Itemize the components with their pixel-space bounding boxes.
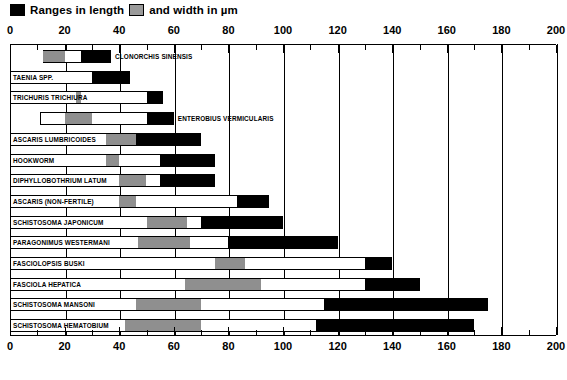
axis-bottom (10, 335, 556, 336)
axis-tick-label-60: 60 (168, 24, 180, 36)
legend-length-swatch (10, 4, 25, 16)
axis-tick-10 (37, 330, 38, 335)
length-range-bar (201, 217, 283, 228)
width-range-bar (147, 217, 188, 228)
axis-tick-30 (92, 330, 93, 335)
width-range-bar (106, 155, 120, 166)
legend-width-label: and width in µm (149, 4, 238, 16)
bar-row[interactable]: TAENIA SPP. (10, 71, 556, 84)
axis-tick-190 (529, 330, 530, 335)
width-range-bar (65, 113, 92, 124)
axis-tick-label-20: 20 (58, 340, 70, 352)
bar-row-label: SCHISTOSOMA HEMATOBIUM (10, 320, 109, 331)
width-range-bar (119, 196, 135, 207)
axis-tick-80 (228, 327, 229, 335)
bar-row[interactable]: PARAGONIMUS WESTERMANI (10, 236, 556, 249)
bar-row[interactable]: FASCIOLOPSIS BUSKI (10, 257, 556, 270)
axis-tick-160 (447, 327, 448, 335)
bar-row-label: SCHISTOSOMA JAPONICUM (10, 217, 104, 228)
plot-area (10, 44, 558, 335)
bar-row-label: FASCIOLOPSIS BUSKI (10, 258, 85, 269)
bar-row-label: DIPHYLLOBOTHRIUM LATUM (10, 175, 107, 186)
chart-root: Ranges in length and width in µm 0204060… (0, 0, 567, 380)
axis-tick-120 (338, 327, 339, 335)
axis-tick-20 (65, 327, 66, 335)
axis-tick-label-160: 160 (438, 24, 456, 36)
width-range-bar (119, 175, 146, 186)
axis-tick-140 (392, 327, 393, 335)
gridline-20 (66, 44, 67, 335)
bar-row[interactable]: TRICHURIS TRICHIURA (10, 91, 556, 104)
length-range-bar (365, 279, 420, 290)
length-range-bar (92, 72, 130, 83)
axis-tick-150 (420, 330, 421, 335)
width-range-bar (215, 258, 245, 269)
gridline-140 (393, 44, 394, 335)
axis-tick-label-0: 0 (7, 24, 13, 36)
axis-tick-label-80: 80 (222, 340, 234, 352)
legend-width-swatch (129, 4, 144, 16)
axis-tick-200 (556, 45, 557, 53)
axis-tick-label-60: 60 (168, 340, 180, 352)
bar-row-label: PARAGONIMUS WESTERMANI (10, 237, 110, 248)
gridline-120 (339, 44, 340, 335)
bar-row[interactable]: DIPHYLLOBOTHRIUM LATUM (10, 174, 556, 187)
gridline-40 (120, 44, 121, 335)
bar-row-label: ASCARIS (NON-FERTILE) (10, 196, 94, 207)
axis-tick-label-40: 40 (113, 340, 125, 352)
bar-row-label: ENTEROBIUS VERMICULARIS (174, 113, 274, 124)
axis-tick-110 (310, 330, 311, 335)
width-range-bar (125, 320, 201, 331)
axis-tick-0 (10, 327, 11, 335)
axis-tick-200 (556, 327, 557, 335)
width-range-bar (106, 134, 136, 145)
gridline-100 (284, 44, 285, 335)
length-range-bar (160, 155, 215, 166)
axis-tick-label-40: 40 (113, 24, 125, 36)
chart-legend: Ranges in length and width in µm (10, 2, 238, 18)
axis-tick-170 (474, 330, 475, 335)
bar-row[interactable]: ASCARIS (NON-FERTILE) (10, 195, 556, 208)
axis-tick-label-20: 20 (58, 24, 70, 36)
length-range-bar (228, 237, 337, 248)
axis-tick-50 (147, 330, 148, 335)
bar-row-label: TAENIA SPP. (10, 72, 53, 83)
bar-row[interactable]: CLONORCHIS SINENSIS (10, 50, 556, 63)
bar-row[interactable]: HOOKWORM (10, 154, 556, 167)
gridline-60 (175, 44, 176, 335)
bar-row[interactable]: SCHISTOSOMA MANSONI (10, 298, 556, 311)
width-range-bar (136, 299, 202, 310)
length-range-bar (136, 134, 202, 145)
bar-row[interactable]: SCHISTOSOMA JAPONICUM (10, 216, 556, 229)
gridline-160 (448, 44, 449, 335)
axis-tick-label-160: 160 (438, 340, 456, 352)
axis-tick-label-140: 140 (383, 24, 401, 36)
length-range-bar (81, 51, 111, 62)
legend-length-label: Ranges in length (30, 4, 124, 16)
axis-top (10, 44, 556, 45)
axis-tick-130 (365, 330, 366, 335)
axis-tick-label-200: 200 (547, 24, 565, 36)
bar-row[interactable]: FASCIOLA HEPATICA (10, 278, 556, 291)
width-range-bar (43, 51, 65, 62)
axis-tick-90 (256, 330, 257, 335)
axis-tick-label-100: 100 (274, 24, 292, 36)
axis-tick-label-0: 0 (7, 340, 13, 352)
axis-tick-180 (501, 327, 502, 335)
axis-tick-60 (174, 327, 175, 335)
bar-row[interactable]: ENTEROBIUS VERMICULARIS (10, 112, 556, 125)
bar-row-label: CLONORCHIS SINENSIS (111, 51, 192, 62)
axis-tick-40 (119, 327, 120, 335)
length-range-bar (316, 320, 474, 331)
bar-row-label: ASCARIS LUMBRICOIDES (10, 134, 96, 145)
axis-tick-70 (201, 330, 202, 335)
axis-tick-100 (283, 327, 284, 335)
axis-tick-label-180: 180 (492, 24, 510, 36)
length-range-bar (365, 258, 392, 269)
bar-row[interactable]: ASCARIS LUMBRICOIDES (10, 133, 556, 146)
length-range-bar (160, 175, 215, 186)
axis-tick-label-120: 120 (328, 24, 346, 36)
axis-tick-label-180: 180 (492, 340, 510, 352)
bar-row-label: SCHISTOSOMA MANSONI (10, 299, 95, 310)
gridline-180 (502, 44, 503, 335)
